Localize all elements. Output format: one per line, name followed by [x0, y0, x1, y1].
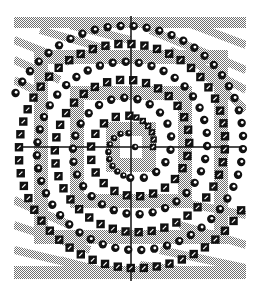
marker-highlight	[221, 73, 224, 76]
marker-highlight	[139, 212, 142, 215]
marker-highlight	[58, 43, 61, 46]
marker-highlight	[213, 63, 216, 66]
marker-highlight	[170, 134, 173, 137]
marker-highlight	[109, 143, 111, 145]
marker-highlight	[153, 247, 156, 250]
marker-highlight	[94, 28, 97, 31]
marker-highlight	[113, 136, 115, 138]
marker-highlight	[123, 174, 125, 176]
marker-highlight	[176, 199, 179, 202]
marker-highlight	[233, 185, 236, 188]
marker-highlight	[226, 196, 229, 199]
marker-highlight	[210, 217, 213, 220]
marker-highlight	[129, 176, 132, 179]
marker-highlight	[200, 169, 203, 172]
marker-highlight	[186, 191, 189, 194]
marker-highlight	[49, 103, 52, 106]
marker-highlight	[72, 147, 75, 150]
marker-highlight	[234, 96, 237, 99]
marker-highlight	[127, 248, 130, 251]
marker-highlight	[178, 239, 181, 242]
spiral-diagram	[0, 0, 258, 290]
marker-highlight	[171, 33, 174, 36]
marker-highlight	[204, 157, 207, 160]
marker-highlight	[76, 173, 79, 176]
marker-highlight	[36, 153, 39, 156]
marker-highlight	[43, 115, 46, 118]
marker-highlight	[70, 37, 73, 40]
marker-highlight	[151, 64, 154, 67]
marker-highlight	[128, 131, 130, 133]
marker-highlight	[138, 61, 141, 64]
marker-highlight	[166, 244, 169, 247]
marker-highlight	[74, 134, 77, 137]
marker-highlight	[79, 231, 82, 234]
marker-highlight	[238, 108, 241, 111]
marker-highlight	[237, 173, 240, 176]
marker-highlight	[51, 203, 54, 206]
marker-highlight	[90, 237, 93, 240]
marker-highlight	[146, 26, 149, 29]
marker-highlight	[201, 226, 204, 229]
marker-highlight	[184, 84, 187, 87]
marker-highlight	[117, 170, 119, 172]
marker-highlight	[98, 103, 101, 106]
marker-highlight	[206, 144, 209, 147]
marker-highlight	[174, 76, 177, 79]
marker-highlight	[88, 111, 91, 114]
marker-highlight	[48, 51, 51, 54]
marker-highlight	[37, 140, 40, 143]
marker-highlight	[37, 166, 40, 169]
marker-highlight	[203, 118, 206, 121]
marker-highlight	[194, 181, 197, 184]
marker-highlight	[68, 222, 71, 225]
marker-highlight	[110, 98, 113, 101]
marker-highlight	[91, 194, 94, 197]
marker-highlight	[155, 170, 158, 173]
marker-highlight	[137, 97, 140, 100]
marker-highlight	[240, 160, 243, 163]
marker-highlight	[112, 164, 114, 166]
marker-highlight	[242, 147, 245, 150]
marker-highlight	[114, 246, 117, 249]
marker-highlight	[101, 202, 104, 205]
marker-highlight	[182, 39, 185, 42]
marker-highlight	[199, 106, 202, 109]
marker-highlight	[126, 211, 129, 214]
marker-highlight	[158, 29, 161, 32]
marker-highlight	[143, 176, 146, 179]
marker-highlight	[140, 248, 143, 251]
marker-highlight	[133, 24, 136, 27]
marker-highlight	[65, 83, 68, 86]
marker-highlight	[219, 207, 222, 210]
diagram-canvas	[0, 0, 258, 290]
marker-highlight	[107, 25, 110, 28]
marker-highlight	[123, 96, 126, 99]
marker-highlight	[21, 80, 24, 83]
marker-highlight	[45, 191, 48, 194]
marker-highlight	[113, 208, 116, 211]
marker-highlight	[206, 131, 209, 134]
marker-highlight	[87, 68, 90, 71]
marker-highlight	[120, 132, 122, 134]
marker-highlight	[134, 145, 136, 147]
marker-highlight	[120, 24, 123, 27]
marker-highlight	[108, 150, 110, 152]
marker-highlight	[192, 94, 195, 97]
marker-highlight	[241, 121, 244, 124]
marker-highlight	[38, 60, 41, 63]
marker-highlight	[125, 60, 128, 63]
marker-highlight	[163, 69, 166, 72]
marker-highlight	[193, 46, 196, 49]
marker-highlight	[228, 84, 231, 87]
marker-highlight	[204, 54, 207, 57]
marker-highlight	[165, 160, 168, 163]
marker-highlight	[149, 102, 152, 105]
marker-highlight	[170, 148, 173, 151]
marker-highlight	[82, 184, 85, 187]
marker-highlight	[39, 127, 42, 130]
marker-highlight	[242, 134, 245, 137]
marker-highlight	[102, 242, 105, 245]
marker-highlight	[167, 122, 170, 125]
marker-highlight	[80, 122, 83, 125]
